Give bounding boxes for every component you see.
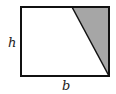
base-label: b	[62, 78, 70, 93]
geometry-diagram: h b	[0, 0, 116, 94]
height-label: h	[8, 35, 16, 50]
